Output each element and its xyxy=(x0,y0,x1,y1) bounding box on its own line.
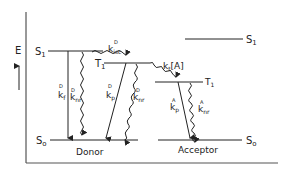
donor-kp-label: kp xyxy=(106,90,115,102)
svg-text:A: A xyxy=(200,99,204,105)
svg-text:T1: T1 xyxy=(204,77,215,88)
acceptor-label: Acceptor xyxy=(178,145,218,155)
donor-knr-s-label: knr xyxy=(70,92,82,103)
transfer-rate-label: kt[A] xyxy=(163,61,184,72)
donor-kf-label: kf xyxy=(58,90,66,101)
svg-text:D: D xyxy=(108,83,112,89)
acceptor-t1-level: T1 xyxy=(155,77,215,88)
acceptor-kp-label: kp xyxy=(170,102,179,114)
donor-t1-level: T1 xyxy=(94,58,150,71)
energy-label: E xyxy=(15,45,21,56)
donor-knr-s-wavy-arrow xyxy=(81,52,84,135)
acceptor-knr-label: knr xyxy=(198,104,210,115)
donor-knr-t-label: knr xyxy=(133,92,145,103)
donor-s1-level: S1 xyxy=(35,46,103,59)
svg-text:A: A xyxy=(172,97,176,103)
acceptor-knr-wavy-arrow xyxy=(189,83,196,142)
donor-kisc-label: kisc xyxy=(108,44,121,55)
donor-knr-t-wavy-arrow xyxy=(125,64,138,140)
svg-text:S1: S1 xyxy=(246,34,257,47)
svg-text:D: D xyxy=(71,87,75,93)
svg-text:So: So xyxy=(36,135,47,148)
acceptor-s1-level: S1 xyxy=(185,34,257,47)
donor-label: Donor xyxy=(76,147,104,157)
donor-kp-arrow xyxy=(106,63,126,138)
svg-text:S1: S1 xyxy=(35,46,46,59)
svg-text:D: D xyxy=(136,87,140,93)
svg-text:So: So xyxy=(246,135,257,148)
energy-diagram: E S1 T1 So Donor kf D knr D kisc D kp D … xyxy=(0,0,293,175)
svg-text:D: D xyxy=(114,39,118,45)
svg-text:D: D xyxy=(59,83,63,89)
svg-text:T1: T1 xyxy=(94,58,106,71)
